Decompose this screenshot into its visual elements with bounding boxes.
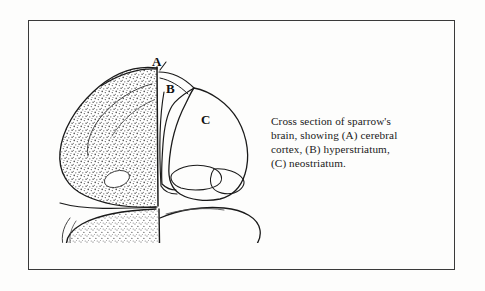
- caption-line-2: brain, showing (A) cerebral: [271, 128, 417, 142]
- caption-line-1: Cross section of sparrow's: [271, 114, 417, 128]
- region-label-b: B: [166, 82, 175, 95]
- region-c-outline: [169, 88, 248, 200]
- region-c-oval-right: [210, 169, 244, 194]
- lower-right-lobe: [159, 207, 260, 243]
- midline-boundary: [157, 67, 158, 206]
- figure-page: A B C Cross section of sparrow's brain, …: [0, 0, 485, 291]
- brain-outline-group: [48, 58, 260, 243]
- brain-cross-section-illustration: [38, 48, 273, 243]
- region-label-a: A: [152, 55, 161, 68]
- caption-line-4: (C) neostriatum.: [271, 156, 417, 170]
- midline-boundary-lower: [159, 209, 160, 243]
- figure-caption: Cross section of sparrow's brain, showin…: [271, 114, 417, 170]
- caption-line-3: cortex, (B) hyperstriatum,: [271, 142, 417, 156]
- region-label-c: C: [201, 113, 210, 126]
- region-b-outline: [159, 72, 194, 190]
